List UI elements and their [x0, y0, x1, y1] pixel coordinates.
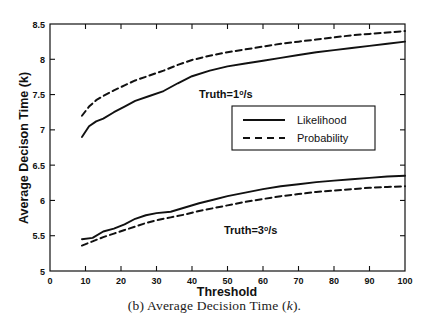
- x-tick-label: 70: [293, 276, 303, 286]
- x-axis-ticks: 0102030405060708090100: [47, 24, 412, 286]
- y-tick-label: 7.5: [32, 90, 45, 100]
- annotation-label: Truth=1o/s: [199, 88, 253, 100]
- legend-label-likelihood: Likelihood: [297, 114, 347, 126]
- y-tick-label: 6.5: [32, 161, 45, 171]
- y-tick-label: 5: [40, 267, 45, 277]
- figure-caption: (b) Average Decision Time (k).: [0, 298, 429, 314]
- y-tick-label: 8.5: [32, 20, 45, 30]
- series-line-probability: [82, 186, 405, 245]
- x-axis-title: Threshold: [197, 285, 257, 299]
- chart-legend: Likelihood Probability: [232, 106, 375, 150]
- figure-panel: 0102030405060708090100 55.566.577.588.5 …: [0, 0, 429, 329]
- annotation-label: Truth=3o/s: [224, 224, 278, 236]
- x-tick-label: 60: [258, 276, 268, 286]
- y-tick-label: 7: [40, 125, 45, 135]
- legend-label-probability: Probability: [297, 132, 349, 144]
- x-tick-label: 10: [80, 276, 90, 286]
- x-tick-label: 100: [397, 276, 412, 286]
- x-tick-label: 30: [151, 276, 161, 286]
- y-tick-label: 5.5: [32, 231, 45, 241]
- x-tick-label: 40: [187, 276, 197, 286]
- x-tick-label: 20: [116, 276, 126, 286]
- y-tick-label: 8: [40, 55, 45, 65]
- chart-canvas: 0102030405060708090100 55.566.577.588.5 …: [0, 0, 429, 329]
- y-tick-label: 6: [40, 196, 45, 206]
- x-tick-label: 90: [364, 276, 374, 286]
- caption-suffix: ).: [293, 298, 301, 313]
- caption-prefix: (b) Average Decision Time (: [128, 298, 287, 313]
- x-tick-label: 80: [329, 276, 339, 286]
- x-tick-label: 0: [47, 276, 52, 286]
- y-axis-title: Average Decison Time (k): [17, 72, 31, 224]
